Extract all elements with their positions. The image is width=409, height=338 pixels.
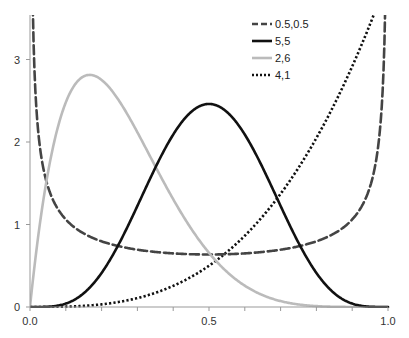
legend-label: 2,6 <box>275 52 290 64</box>
legend-item-5-5: 5,5 <box>252 35 290 47</box>
curve-0-5-0-5 <box>30 0 388 254</box>
x-tick-label-0-5: 0.5 <box>201 315 216 327</box>
legend: 0.5,0.5 5,5 2,6 4,1 <box>252 18 309 81</box>
x-tick-label-0: 0.0 <box>22 315 37 327</box>
legend-item-2-6: 2,6 <box>252 52 290 64</box>
legend-item-0-5-0-5: 0.5,0.5 <box>252 18 309 30</box>
y-axis-ticks <box>26 60 30 308</box>
curve-4-1 <box>30 0 388 307</box>
beta-distribution-chart: 0.0 0.5 1.0 0 1 2 3 0.5,0.5 5,5 2,6 4,1 <box>0 0 409 338</box>
legend-label: 5,5 <box>275 35 290 47</box>
legend-label: 4,1 <box>275 69 290 81</box>
y-tick-label-3: 3 <box>14 54 20 66</box>
plot-curves <box>30 0 388 307</box>
legend-label: 0.5,0.5 <box>275 18 309 30</box>
legend-item-4-1: 4,1 <box>252 69 290 81</box>
x-tick-label-1: 1.0 <box>380 315 395 327</box>
curve-5-5 <box>30 104 388 307</box>
y-tick-label-1: 1 <box>14 219 20 231</box>
curve-2-6 <box>30 75 388 307</box>
y-tick-label-0: 0 <box>14 301 20 313</box>
y-tick-label-2: 2 <box>14 136 20 148</box>
